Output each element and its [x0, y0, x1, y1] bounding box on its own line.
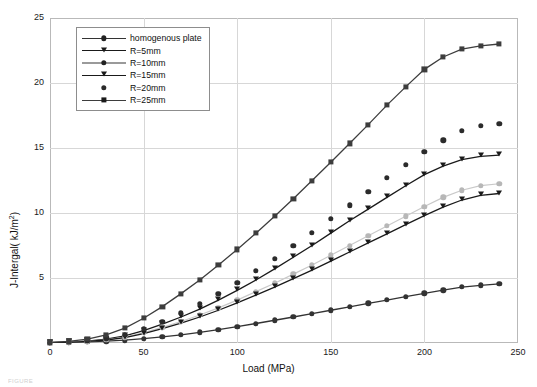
legend-sample — [82, 32, 126, 44]
y-axis-title: J-Intergal( kJ/m2) — [8, 150, 20, 350]
data-point-marker-triangle-down — [347, 249, 353, 254]
data-point-marker-square — [66, 339, 71, 344]
data-point-marker-square — [101, 98, 106, 103]
data-point-marker-square — [216, 262, 221, 267]
data-point-marker-triangle-down — [459, 197, 465, 202]
figure: J-Intergal( kJ/m2) 050100150200250 51015… — [0, 0, 537, 387]
legend-item-r-5mm[interactable]: R=5mm — [82, 44, 202, 56]
data-point-marker-triangle-down — [309, 267, 315, 272]
data-point-marker-triangle-down — [384, 194, 390, 199]
data-point-marker-triangle-down — [365, 239, 371, 244]
data-point-marker-triangle-down — [440, 204, 446, 209]
data-point-marker-triangle-down — [459, 156, 465, 161]
data-point-marker-triangle-down — [290, 254, 296, 259]
x-tick-label: 0 — [47, 347, 52, 357]
y-tick-label: 5 — [24, 272, 44, 282]
data-point-marker-square — [384, 103, 389, 108]
data-point-marker-square — [459, 47, 464, 52]
data-point-marker-square — [104, 332, 109, 337]
legend-label: R=10mm — [126, 58, 165, 68]
data-point-marker-square — [178, 291, 183, 296]
data-point-marker-triangle-down — [272, 265, 278, 270]
data-point-marker-circle — [101, 85, 106, 90]
legend-sample — [82, 82, 126, 94]
legend-sample — [82, 69, 126, 81]
data-point-marker-triangle-down — [421, 171, 427, 176]
data-point-marker-triangle-down — [496, 190, 502, 195]
data-point-marker-triangle-down — [178, 320, 184, 325]
data-point-marker-square — [122, 325, 127, 330]
data-point-marker-triangle-down — [384, 230, 390, 235]
data-point-marker-triangle-down — [328, 258, 334, 263]
data-point-marker-square — [347, 141, 352, 146]
legend-item-homogenous-plate[interactable]: homogenous plate — [82, 32, 202, 44]
data-point-marker-triangle-down — [215, 307, 221, 312]
data-point-marker-square — [160, 304, 165, 309]
data-point-marker-square — [141, 316, 146, 321]
chart-legend: homogenous plateR=5mmR=10mmR=15mmR=20mmR… — [76, 27, 210, 111]
data-point-marker-triangle-down — [101, 47, 107, 52]
data-point-marker-triangle-down — [234, 299, 240, 304]
data-point-marker-square — [366, 122, 371, 127]
legend-label: homogenous plate — [126, 33, 202, 43]
data-point-marker-square — [441, 54, 446, 59]
legend-label: R=15mm — [126, 70, 165, 80]
data-point-marker-circle — [101, 35, 106, 40]
data-point-marker-triangle-down — [234, 287, 240, 292]
y-tick-label: 15 — [24, 142, 44, 152]
data-point-marker-square — [197, 277, 202, 282]
data-point-marker-triangle-down — [403, 182, 409, 187]
x-tick-label: 200 — [417, 347, 432, 357]
data-point-marker-triangle-down — [328, 230, 334, 235]
legend-sample — [82, 45, 126, 57]
x-tick-label: 150 — [323, 347, 338, 357]
legend-item-r-25mm[interactable]: R=25mm — [82, 94, 202, 106]
data-point-marker-square — [403, 84, 408, 89]
data-point-marker-square — [253, 231, 258, 236]
data-point-marker-triangle-down — [309, 242, 315, 247]
data-point-marker-triangle-down — [478, 153, 484, 158]
data-point-marker-triangle-down — [197, 314, 203, 319]
data-point-marker-square — [328, 160, 333, 165]
data-point-marker-triangle-down — [253, 292, 259, 297]
data-point-marker-square — [478, 43, 483, 48]
y-tick-label: 20 — [24, 77, 44, 87]
x-tick-label: 250 — [510, 347, 525, 357]
data-point-marker-triangle-down — [253, 276, 259, 281]
data-point-marker-square — [309, 178, 314, 183]
data-point-marker-triangle-down — [440, 163, 446, 168]
legend-item-r-15mm[interactable]: R=15mm — [82, 69, 202, 81]
y-axis-title-wrap: J-Intergal( kJ/m2) — [14, 0, 34, 387]
legend-label: R=20mm — [126, 83, 165, 93]
data-point-marker-triangle-down — [101, 72, 107, 77]
data-point-marker-square — [422, 67, 427, 72]
data-point-marker-triangle-down — [365, 206, 371, 211]
legend-label: R=5mm — [126, 46, 161, 56]
series-line-homogenous-plate — [50, 284, 499, 343]
y-tick-label: 10 — [24, 207, 44, 217]
x-axis-title: Load (MPa) — [0, 363, 537, 374]
x-tick-label: 100 — [230, 347, 245, 357]
data-point-marker-triangle-down — [215, 297, 221, 302]
legend-sample — [82, 94, 126, 106]
legend-sample — [82, 57, 126, 69]
x-tick-label: 50 — [139, 347, 149, 357]
legend-item-r-20mm[interactable]: R=20mm — [82, 82, 202, 94]
data-point-marker-square — [235, 247, 240, 252]
data-point-marker-triangle-down — [496, 152, 502, 157]
data-point-marker-triangle-down — [478, 192, 484, 197]
data-point-marker-triangle-down — [347, 217, 353, 222]
data-point-marker-square — [272, 214, 277, 219]
data-point-marker-square — [497, 41, 502, 46]
data-point-marker-square — [47, 340, 52, 345]
figure-caption: FIGURE — [8, 378, 528, 386]
data-point-marker-triangle-down — [159, 325, 165, 330]
data-point-marker-triangle-down — [197, 306, 203, 311]
data-point-marker-triangle-down — [403, 221, 409, 226]
y-tick-label: 25 — [24, 12, 44, 22]
data-point-marker-triangle-down — [421, 212, 427, 217]
series-line-r-5mm — [50, 155, 499, 342]
data-point-marker-triangle-down — [272, 284, 278, 289]
data-point-marker-square — [85, 337, 90, 342]
legend-item-r-10mm[interactable]: R=10mm — [82, 57, 202, 69]
